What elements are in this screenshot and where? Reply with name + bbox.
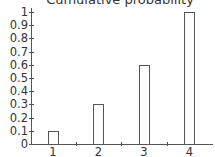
chart-title: Cumulative probability: [0, 0, 215, 7]
y-tick-mark: [29, 12, 34, 13]
cumulative-probability-chart: Cumulative probability 00.10.20.30.40.50…: [0, 0, 215, 157]
y-tick-label: 0.4: [10, 85, 28, 97]
y-tick-label: 0.6: [10, 59, 28, 71]
y-tick-mark: [29, 104, 34, 105]
y-tick-mark: [29, 65, 34, 66]
y-tick-label: 0: [21, 138, 28, 150]
y-tick-mark: [29, 78, 34, 79]
bar-2: [93, 104, 104, 145]
x-tick-mark: [121, 142, 122, 146]
x-tick-label: 2: [89, 146, 109, 157]
y-tick-label: 0.2: [10, 112, 28, 124]
x-tick-label: 1: [43, 146, 63, 157]
y-tick-label: 0.9: [10, 19, 28, 31]
y-tick-label: 1: [21, 6, 28, 18]
y-tick-mark: [29, 91, 34, 92]
y-tick-mark: [29, 38, 34, 39]
y-tick-mark: [29, 25, 34, 26]
y-tick-mark: [29, 131, 34, 132]
bar-4: [184, 12, 195, 145]
y-tick-label: 0.3: [10, 98, 28, 110]
x-tick-mark: [167, 142, 168, 146]
x-tick-label: 3: [134, 146, 154, 157]
y-tick-label: 0.1: [10, 125, 28, 137]
bar-3: [139, 65, 150, 145]
bar-1: [48, 131, 59, 145]
x-tick-label: 4: [180, 146, 200, 157]
y-tick-label: 0.5: [10, 72, 28, 84]
y-tick-label: 0.8: [10, 32, 28, 44]
y-tick-label: 0.7: [10, 46, 28, 58]
y-tick-mark: [29, 144, 34, 145]
y-tick-mark: [29, 118, 34, 119]
y-tick-mark: [29, 52, 34, 53]
y-axis: [31, 8, 32, 145]
x-tick-mark: [76, 142, 77, 146]
